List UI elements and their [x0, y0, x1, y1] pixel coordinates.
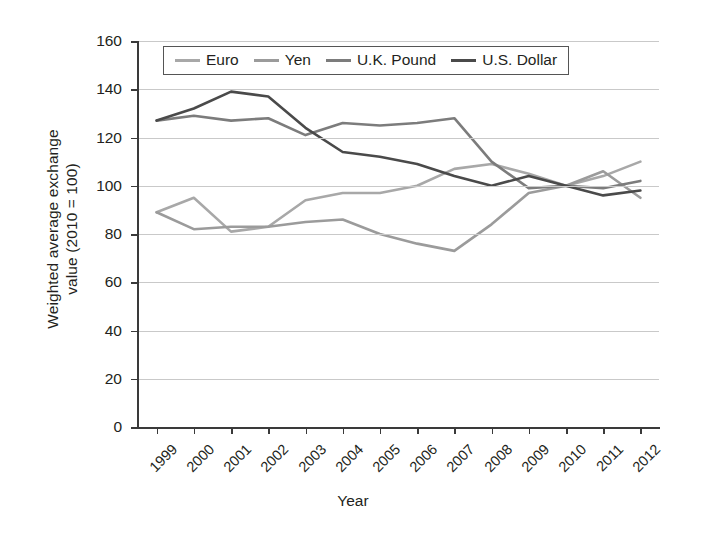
- x-axis-tick-mark: [492, 427, 494, 434]
- x-axis-title: Year: [0, 492, 706, 510]
- x-axis-tick-label: 2006: [406, 441, 440, 475]
- x-axis-tick-label: 2001: [220, 441, 254, 475]
- legend-label: Euro: [206, 51, 239, 69]
- legend-item[interactable]: U.K. Pound: [326, 51, 436, 69]
- x-axis-tick-label: 2010: [555, 441, 589, 475]
- y-axis-tick-mark: [131, 331, 138, 333]
- x-axis-tick-label: 2002: [257, 441, 291, 475]
- plot-area: [138, 41, 659, 427]
- y-axis-tick-label: 60: [80, 273, 122, 291]
- x-axis-tick-mark: [640, 427, 642, 434]
- legend-item[interactable]: Yen: [254, 51, 311, 69]
- x-axis-tick-mark: [417, 427, 419, 434]
- y-axis-tick-label: 80: [80, 225, 122, 243]
- x-axis-tick-label: 2003: [295, 441, 329, 475]
- x-axis-tick-mark: [231, 427, 233, 434]
- y-axis-tick-mark: [131, 379, 138, 381]
- y-axis-tick-label: 160: [80, 32, 122, 50]
- legend-swatch-icon: [254, 59, 279, 62]
- legend-item[interactable]: U.S. Dollar: [451, 51, 557, 69]
- legend-label: Yen: [285, 51, 311, 69]
- y-axis-tick-label: 0: [80, 418, 122, 436]
- x-axis-tick-mark: [194, 427, 196, 434]
- series-line: [157, 116, 641, 188]
- x-axis-tick-label: 2008: [481, 441, 515, 475]
- series-line: [157, 171, 641, 251]
- gridline: [138, 186, 659, 187]
- legend-swatch-icon: [175, 59, 200, 62]
- y-axis-tick-mark: [131, 138, 138, 140]
- y-axis-tick-mark: [131, 282, 138, 284]
- x-axis-tick-label: 1999: [146, 441, 180, 475]
- y-axis-tick-label: 40: [80, 322, 122, 340]
- series-line: [157, 162, 641, 232]
- x-axis-tick-mark: [268, 427, 270, 434]
- x-axis-tick-mark: [343, 427, 345, 434]
- y-axis-tick-label: 100: [80, 177, 122, 195]
- x-axis-tick-label: 2007: [443, 441, 477, 475]
- y-axis-tick-label: 20: [80, 370, 122, 388]
- x-axis-tick-mark: [306, 427, 308, 434]
- series-line: [157, 92, 641, 196]
- gridline: [138, 379, 659, 380]
- y-axis-tick-label: 120: [80, 129, 122, 147]
- x-axis-tick-mark: [380, 427, 382, 434]
- legend-label: U.S. Dollar: [482, 51, 557, 69]
- gridline: [138, 138, 659, 139]
- y-axis-title: Weighted average exchange value (2010 = …: [43, 59, 81, 399]
- x-axis-tick-mark: [157, 427, 159, 434]
- x-axis-tick-label: 2012: [630, 441, 664, 475]
- legend-label: U.K. Pound: [357, 51, 436, 69]
- x-axis-tick-label: 2005: [369, 441, 403, 475]
- gridline: [138, 41, 659, 42]
- x-axis-tick-label: 2009: [518, 441, 552, 475]
- x-axis-tick-mark: [566, 427, 568, 434]
- x-axis-line: [138, 427, 660, 429]
- legend-swatch-icon: [326, 59, 351, 62]
- x-axis-tick-mark: [603, 427, 605, 434]
- y-axis-tick-mark: [131, 234, 138, 236]
- y-axis-tick-label: 140: [80, 80, 122, 98]
- y-axis-tick-mark: [131, 186, 138, 188]
- gridline: [138, 234, 659, 235]
- y-axis-title-line-2: value (2010 = 100): [62, 59, 81, 399]
- y-axis-tick-mark: [131, 41, 138, 43]
- x-axis-tick-mark: [529, 427, 531, 434]
- x-axis-tick-label: 2004: [332, 441, 366, 475]
- chart-legend: EuroYenU.K. PoundU.S. Dollar: [163, 46, 569, 75]
- y-axis-title-line-1: Weighted average exchange: [43, 59, 62, 399]
- x-axis-tick-mark: [454, 427, 456, 434]
- x-axis-tick-label: 2011: [593, 441, 626, 474]
- gridline: [138, 282, 659, 283]
- gridline: [138, 331, 659, 332]
- line-chart-figure: Weighted average exchange value (2010 = …: [0, 0, 706, 539]
- x-axis-tick-label: 2000: [183, 441, 217, 475]
- legend-swatch-icon: [451, 59, 476, 62]
- y-axis-tick-mark: [131, 89, 138, 91]
- gridline: [138, 89, 659, 90]
- y-axis-tick-mark: [131, 427, 138, 429]
- legend-item[interactable]: Euro: [175, 51, 239, 69]
